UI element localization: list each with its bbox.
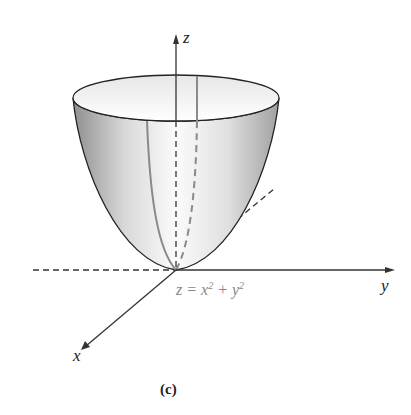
- equation-part: + y: [213, 281, 239, 298]
- equation-exponent: 2: [239, 280, 244, 291]
- x-axis: [86, 270, 176, 346]
- y-axis-label: y: [381, 276, 389, 296]
- figure: z y x z = x2 + y2 (c): [0, 0, 411, 415]
- figure-caption: (c): [160, 381, 177, 398]
- z-arrow-icon: [173, 34, 179, 44]
- equation-label: z = x2 + y2: [176, 280, 244, 299]
- x-axis-label: x: [73, 346, 81, 366]
- z-axis-label: z: [183, 28, 190, 48]
- paraboloid-diagram: [0, 0, 411, 415]
- x-arrow-icon: [81, 341, 90, 350]
- y-arrow-icon: [385, 267, 395, 273]
- equation-part: z = x: [176, 281, 208, 298]
